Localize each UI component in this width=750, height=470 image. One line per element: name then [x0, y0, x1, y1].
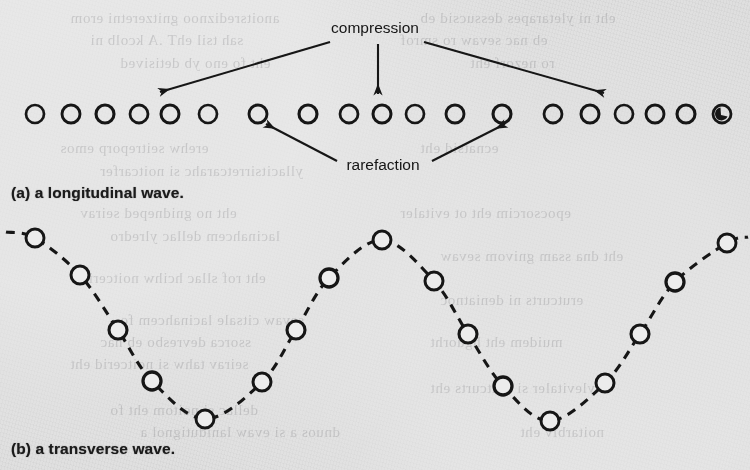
longitudinal-particle	[161, 105, 179, 123]
rarefaction-arrow-right	[432, 124, 505, 161]
longitudinal-particle	[299, 105, 317, 123]
transverse-particle-group	[26, 229, 736, 430]
compression-arrow-left	[160, 42, 330, 92]
rarefaction-arrow-left	[266, 124, 337, 161]
longitudinal-particle	[130, 105, 148, 123]
caption-panel-a: (a) a longitudinal wave.	[11, 184, 184, 202]
compression-arrow-group	[160, 42, 604, 94]
longitudinal-particle-row	[26, 105, 731, 123]
marked-particle-fill	[715, 108, 727, 121]
longitudinal-particle	[26, 105, 44, 123]
wave-diagram-svg: compression rarefaction	[0, 0, 750, 470]
longitudinal-particle	[646, 105, 664, 123]
longitudinal-particle	[544, 105, 562, 123]
longitudinal-particle	[581, 105, 599, 123]
longitudinal-particle	[493, 105, 511, 123]
longitudinal-particle	[199, 105, 217, 123]
figure-page: anoitsrediznoo gnitzeretni eromeht ni yl…	[0, 0, 750, 470]
panel-b-transverse-wave	[6, 229, 748, 430]
rarefaction-label: rarefaction	[346, 156, 419, 173]
compression-arrow-right	[424, 42, 604, 93]
panel-a-longitudinal-wave	[26, 42, 731, 161]
longitudinal-particle	[406, 105, 424, 123]
longitudinal-particle	[677, 105, 695, 123]
longitudinal-particle	[373, 105, 391, 123]
longitudinal-particle	[615, 105, 633, 123]
longitudinal-particle	[62, 105, 80, 123]
longitudinal-particle	[340, 105, 358, 123]
caption-panel-b: (b) a transverse wave.	[11, 440, 175, 458]
compression-label: compression	[331, 19, 419, 36]
longitudinal-particle	[446, 105, 464, 123]
longitudinal-particle	[96, 105, 114, 123]
longitudinal-particle	[249, 105, 267, 123]
